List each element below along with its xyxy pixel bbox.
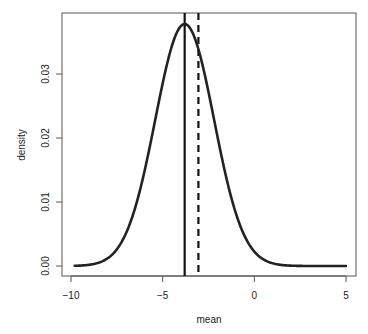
x-tick-label: 0 [252,290,258,301]
reference-lines [185,13,199,276]
x-axis-title: mean [196,314,221,325]
y-axis: 0.000.010.020.03 [40,64,62,276]
y-tick-label: 0.00 [40,256,51,276]
plot-frame [62,13,356,276]
y-tick-label: 0.03 [40,64,51,84]
x-tick-label: −10 [63,290,80,301]
y-axis-title: density [16,129,27,161]
density-curve [75,24,346,266]
x-tick-label: 5 [343,290,349,301]
y-tick-label: 0.02 [40,128,51,148]
x-tick-label: −5 [157,290,169,301]
x-axis: −10−505 [63,276,350,301]
y-tick-label: 0.01 [40,192,51,212]
density-chart: −10−505 0.000.010.020.03 mean density [0,0,368,334]
